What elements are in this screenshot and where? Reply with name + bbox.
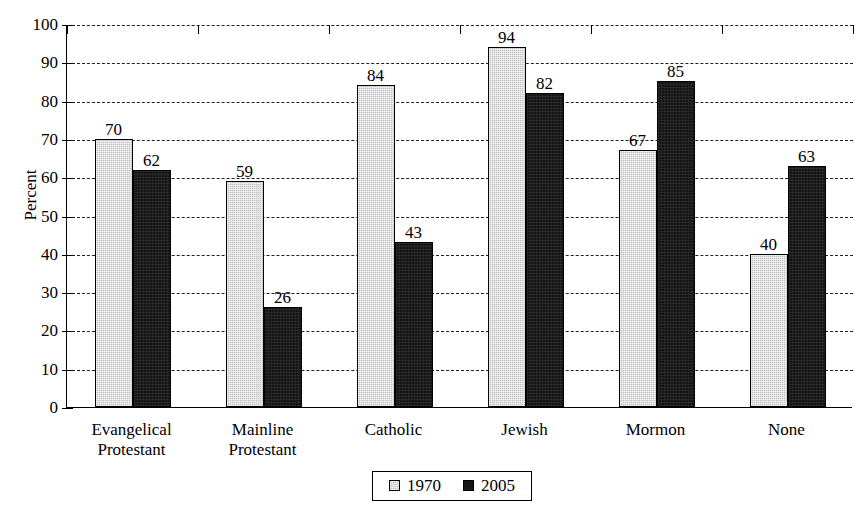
x-axis-category-line: Protestant bbox=[197, 440, 328, 460]
gridline bbox=[67, 217, 853, 218]
x-axis-category-label: EvangelicalProtestant bbox=[66, 420, 197, 460]
bar-jewish-2005: 82 bbox=[526, 93, 564, 407]
y-axis-tick bbox=[62, 293, 73, 294]
x-axis-tick bbox=[853, 25, 854, 34]
legend-item-2005: 2005 bbox=[463, 477, 515, 494]
bar-value-label: 26 bbox=[274, 289, 291, 306]
bar-catholic-1970: 84 bbox=[357, 85, 395, 407]
bar-mainline-protestant-2005: 26 bbox=[264, 307, 302, 407]
plot-area: 0102030405060708090100706259268443948267… bbox=[66, 25, 852, 408]
x-axis-tick bbox=[460, 25, 461, 34]
y-axis-tick bbox=[62, 408, 73, 409]
y-axis-title: Percent bbox=[21, 140, 41, 250]
bar-mormon-2005: 85 bbox=[657, 81, 695, 407]
legend-label-1970: 1970 bbox=[407, 477, 441, 494]
bar-value-label: 62 bbox=[143, 152, 160, 169]
y-axis-tick bbox=[62, 370, 73, 371]
gridline bbox=[67, 102, 853, 103]
bar-value-label: 70 bbox=[105, 121, 122, 138]
y-axis-tick bbox=[62, 140, 73, 141]
x-axis-category-label: Jewish bbox=[459, 420, 590, 440]
x-axis-category-line: Jewish bbox=[459, 420, 590, 440]
y-axis-tick-label: 40 bbox=[41, 245, 58, 265]
y-axis-tick bbox=[62, 63, 73, 64]
bar-value-label: 43 bbox=[405, 224, 422, 241]
x-axis-category-label: MainlineProtestant bbox=[197, 420, 328, 460]
bar-value-label: 67 bbox=[629, 132, 646, 149]
legend-label-2005: 2005 bbox=[481, 477, 515, 494]
x-axis-tick bbox=[198, 25, 199, 34]
y-axis-tick-label: 30 bbox=[41, 283, 58, 303]
gridline bbox=[67, 140, 853, 141]
x-axis-category-label: None bbox=[721, 420, 852, 440]
bar-value-label: 84 bbox=[367, 67, 384, 84]
gridline bbox=[67, 331, 853, 332]
x-axis-tick bbox=[591, 25, 592, 34]
bar-evangelical-protestant-2005: 62 bbox=[133, 170, 171, 407]
x-axis-category-line: Protestant bbox=[66, 440, 197, 460]
gridline bbox=[67, 370, 853, 371]
gridline bbox=[67, 63, 853, 64]
x-axis-category-line: None bbox=[721, 420, 852, 440]
x-axis-tick bbox=[329, 25, 330, 34]
y-axis-tick-label: 60 bbox=[41, 168, 58, 188]
gridline bbox=[67, 293, 853, 294]
x-axis-tick bbox=[722, 25, 723, 34]
legend-item-1970: 1970 bbox=[389, 477, 441, 494]
x-axis-category-line: Mainline bbox=[197, 420, 328, 440]
bar-jewish-1970: 94 bbox=[488, 47, 526, 407]
bar-mainline-protestant-1970: 59 bbox=[226, 181, 264, 407]
bar-none-2005: 63 bbox=[788, 166, 826, 407]
bar-value-label: 85 bbox=[667, 63, 684, 80]
bar-catholic-2005: 43 bbox=[395, 242, 433, 407]
x-axis-category-label: Mormon bbox=[590, 420, 721, 440]
y-axis-tick-label: 20 bbox=[41, 321, 58, 341]
x-axis-tick bbox=[67, 25, 68, 34]
chart-legend: 1970 2005 bbox=[372, 471, 532, 501]
y-axis-tick-label: 80 bbox=[41, 92, 58, 112]
y-axis-tick-label: 10 bbox=[41, 360, 58, 380]
y-axis-tick-label: 50 bbox=[41, 207, 58, 227]
y-axis-tick-label: 70 bbox=[41, 130, 58, 150]
y-axis-tick bbox=[62, 217, 73, 218]
x-axis-category-line: Mormon bbox=[590, 420, 721, 440]
x-axis-category-line: Evangelical bbox=[66, 420, 197, 440]
gray-swatch-icon bbox=[389, 480, 400, 491]
y-axis-tick bbox=[62, 255, 73, 256]
bar-value-label: 40 bbox=[760, 236, 777, 253]
y-axis-tick bbox=[62, 331, 73, 332]
bar-mormon-1970: 67 bbox=[619, 150, 657, 407]
y-axis-tick bbox=[62, 178, 73, 179]
y-axis-tick-label: 100 bbox=[33, 15, 59, 35]
bar-value-label: 59 bbox=[236, 163, 253, 180]
black-swatch-icon bbox=[463, 480, 474, 491]
bar-chart: Percent 01020304050607080901007062592684… bbox=[0, 0, 864, 521]
x-axis-category-line: Catholic bbox=[328, 420, 459, 440]
gridline bbox=[67, 255, 853, 256]
bar-value-label: 94 bbox=[498, 29, 515, 46]
bar-value-label: 63 bbox=[798, 148, 815, 165]
bar-none-1970: 40 bbox=[750, 254, 788, 407]
y-axis-tick-label: 90 bbox=[41, 53, 58, 73]
x-axis-category-label: Catholic bbox=[328, 420, 459, 440]
bar-value-label: 82 bbox=[536, 75, 553, 92]
bar-evangelical-protestant-1970: 70 bbox=[95, 139, 133, 407]
y-axis-tick-label: 0 bbox=[50, 398, 59, 418]
y-axis-tick bbox=[62, 102, 73, 103]
gridline bbox=[67, 178, 853, 179]
